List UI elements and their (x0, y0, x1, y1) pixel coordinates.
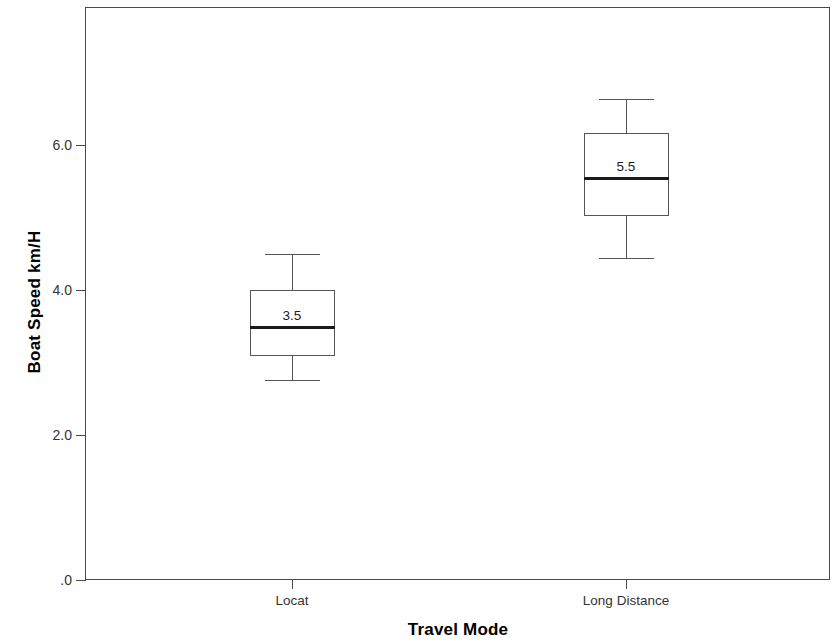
y-tick-label-0: .0 (12, 572, 72, 588)
box2-rect (584, 133, 669, 216)
y-tick-mark-2 (76, 435, 86, 436)
y-tick-mark-4 (76, 290, 86, 291)
box2-lower-whisker-cap (599, 258, 654, 259)
box2-median-label: 5.5 (586, 159, 666, 174)
y-tick-mark-0 (76, 580, 86, 581)
box1-lower-whisker-cap (265, 380, 320, 381)
box1-lower-whisker-stem (292, 356, 293, 380)
y-tick-label-2: 2.0 (12, 427, 72, 443)
x-axis-title: Travel Mode (85, 620, 831, 640)
x-tick-label-1: Long Distance (526, 593, 726, 608)
box1-upper-whisker-stem (292, 254, 293, 290)
y-axis-title: Boat Speed km/H (25, 182, 45, 422)
boxplot-chart: Boat Speed km/H .0 2.0 4.0 6.0 3.5 5.5 L… (0, 0, 837, 644)
x-tick-mark-0 (292, 580, 293, 589)
box1-median-label: 3.5 (252, 308, 332, 323)
box1-median-line (250, 326, 335, 329)
box2-median-line (584, 177, 669, 180)
y-tick-label-4: 4.0 (12, 282, 72, 298)
box1-rect (250, 290, 335, 356)
x-tick-mark-1 (626, 580, 627, 589)
y-tick-label-6: 6.0 (12, 137, 72, 153)
plot-area (85, 7, 830, 580)
x-tick-label-0: Locat (192, 593, 392, 608)
box2-upper-whisker-stem (626, 99, 627, 133)
box2-lower-whisker-stem (626, 216, 627, 258)
y-tick-mark-6 (76, 145, 86, 146)
